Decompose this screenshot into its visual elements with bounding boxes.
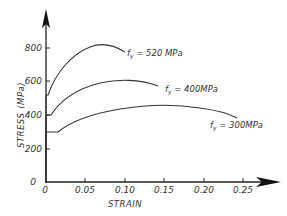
y-tick-label: 200 <box>25 144 42 154</box>
y-tick-label: 800 <box>25 43 42 53</box>
x-axis-title: STRAIN <box>108 199 142 209</box>
curve-fy-300 <box>46 105 237 182</box>
y-tick-labels: 0 200 400 600 800 <box>25 43 42 187</box>
stress-strain-chart: 0 200 400 600 800 0 0.05 0.10 0.15 0.20 … <box>0 0 287 216</box>
curve-fy-400 <box>46 80 158 182</box>
y-tick-label: 400 <box>25 110 42 120</box>
y-tick-label: 0 <box>30 177 36 187</box>
curve-fy-520 <box>46 45 125 182</box>
x-tick-label: 0.15 <box>154 185 174 195</box>
x-tick-labels: 0 0.05 0.10 0.15 0.20 0.25 <box>42 185 253 195</box>
x-tick-label: 0.20 <box>194 185 214 195</box>
svg-text:STRESS(MPa): STRESS(MPa) <box>16 82 26 148</box>
y-tick-label: 600 <box>25 76 42 86</box>
x-tick-label: 0.25 <box>233 185 253 195</box>
curve-label-fy-300: fy = 300MPa <box>210 120 263 132</box>
x-tick-label: 0 <box>42 185 48 195</box>
x-tick-label: 0.10 <box>115 185 135 195</box>
x-tick-label: 0.05 <box>75 185 95 195</box>
y-axis-title: STRESS(MPa) <box>16 82 26 148</box>
curve-label-fy-520: fy = 520 MPa <box>127 48 183 60</box>
curve-label-fy-400: fy = 400MPa <box>165 84 218 96</box>
